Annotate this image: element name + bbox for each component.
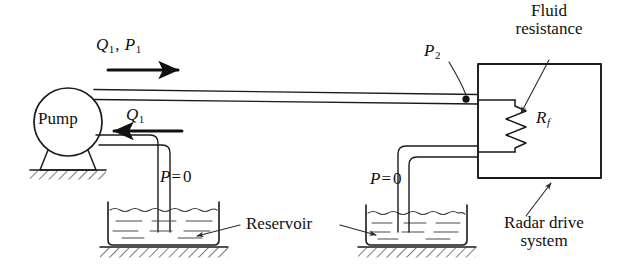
reservoir-leader-right (340, 225, 376, 235)
reservoir-left (108, 202, 219, 245)
return-pipe (398, 146, 478, 232)
radar-drive-system-label: Radar drive system (480, 214, 608, 251)
reservoir-left-ground (100, 247, 228, 258)
flow-in-label: Q1 (126, 106, 144, 126)
pump-ground-hatch (30, 171, 106, 180)
rf-r: R (536, 108, 546, 127)
p0-right-val: 0 (392, 169, 403, 188)
fluid-resistance-line2: resistance (497, 20, 601, 38)
flow-pressure-out-label: Q1, P1 (96, 36, 141, 56)
water-body-right (370, 223, 460, 239)
fluid-resistance-label: Fluid resistance (497, 2, 601, 39)
rf-sub: f (546, 116, 550, 128)
pressure-two-label: P2 (424, 42, 440, 62)
p0-left-p: P (160, 167, 170, 186)
q1-in-sub: 1 (138, 113, 144, 125)
radar-drive-leader (526, 183, 551, 216)
q1-p1-p: P (125, 35, 135, 54)
pump-assembly (30, 88, 106, 170)
p0-right-p: P (370, 169, 380, 188)
figure-canvas: Pump Q1, P1 Q1 P2 Rf Fluid resistance Ra… (0, 0, 638, 264)
resistance-symbol-label: Rf (536, 109, 550, 129)
q1-p1-p-sub: 1 (135, 43, 141, 55)
water-surface-left (110, 209, 217, 212)
fluid-resistance-line1: Fluid (497, 2, 601, 20)
p2-sub: 2 (434, 49, 440, 61)
q1-p1-sep: , (114, 35, 125, 54)
p0-left-eq: = (170, 167, 182, 186)
radar-line2: system (480, 232, 608, 250)
pressure-tap-p2 (462, 96, 469, 103)
p2-leader-line (449, 62, 466, 95)
p0-left-val: 0 (182, 167, 193, 186)
p0-right-eq: = (380, 169, 392, 188)
pressure-zero-right-label: P=0 (370, 170, 402, 188)
pump-label: Pump (38, 110, 78, 128)
suction-pipe-q1 (96, 135, 170, 232)
q1-in-q: Q (126, 105, 138, 124)
p2-p: P (424, 41, 434, 60)
radar-line1: Radar drive (480, 214, 608, 232)
water-surface-right (368, 212, 465, 215)
delivery-pipe-q1-p1 (94, 90, 478, 105)
pressure-zero-left-label: P=0 (160, 168, 192, 186)
reservoir-label: Reservoir (246, 215, 312, 233)
reservoir-right-ground (358, 247, 476, 258)
q1-p1-q: Q (96, 35, 108, 54)
